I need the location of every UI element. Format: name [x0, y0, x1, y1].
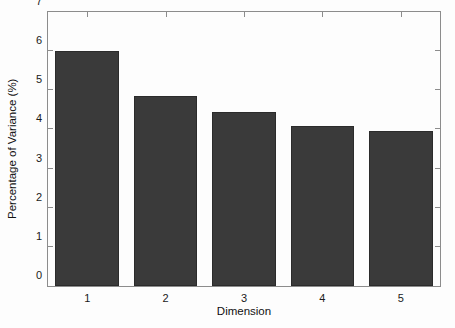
y-tick-label: 3	[36, 152, 42, 163]
x-axis-title-text: Dimension	[217, 305, 271, 317]
x-tick-label: 1	[84, 293, 90, 304]
x-axis-title: Dimension	[47, 306, 441, 318]
y-tick-label: 5	[36, 74, 42, 85]
x-tick-label: 2	[163, 293, 169, 304]
bar-chart-figure: 01234567 12345 Percentage of Variance (%…	[0, 0, 455, 328]
bar-slot	[205, 12, 283, 286]
y-axis-title-text: Percentage of Variance (%)	[7, 79, 19, 219]
x-tick-label: 4	[319, 293, 325, 304]
x-tick-label: 3	[241, 293, 247, 304]
bar	[369, 131, 432, 286]
y-tick-label: 7	[36, 0, 42, 7]
y-tick-label: 4	[36, 113, 42, 124]
y-tick-label: 2	[36, 191, 42, 202]
plot-area: 01234567 12345	[47, 11, 441, 287]
bar-slot	[48, 12, 126, 286]
y-tick-label: 1	[36, 230, 42, 241]
bar	[212, 112, 275, 286]
bar-slot	[362, 12, 440, 286]
bar	[55, 51, 118, 286]
y-tick-label: 0	[36, 270, 42, 281]
bar	[134, 96, 197, 286]
y-axis-title: Percentage of Variance (%)	[6, 11, 20, 287]
bar-slot	[126, 12, 204, 286]
x-tick-label: 5	[398, 293, 404, 304]
y-tick-label: 6	[36, 35, 42, 46]
bar-slot	[283, 12, 361, 286]
bar	[291, 126, 354, 286]
